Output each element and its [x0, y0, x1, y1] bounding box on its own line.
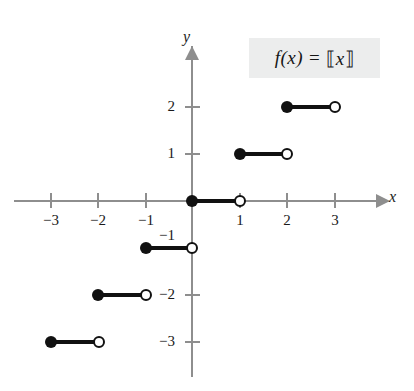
y-tick-label-2: 2: [145, 98, 175, 115]
closed-endpoint-2: [281, 101, 293, 113]
open-endpoint-neg2: [140, 289, 152, 301]
function-label-box: f(x) = ⟦x⟧: [249, 38, 380, 78]
y-tick-label-neg1: −1: [145, 227, 175, 244]
step-segment-2: [287, 105, 335, 109]
y-tick-mark-neg3: [185, 341, 200, 343]
x-tick-label-3: 3: [320, 212, 350, 229]
y-axis-line: [191, 46, 193, 377]
y-axis-label: y: [183, 28, 190, 46]
step-segment-neg2: [98, 293, 146, 297]
function-label-brackets: ⟦x⟧: [326, 47, 354, 70]
closed-endpoint-neg2: [92, 289, 104, 301]
x-tick-label-2: 2: [272, 212, 302, 229]
x-tick-mark-neg2: [97, 193, 99, 208]
step-segment-neg3: [51, 340, 99, 344]
closed-endpoint-neg3: [45, 336, 57, 348]
closed-endpoint-0: [186, 195, 198, 207]
step-segment-1: [240, 152, 287, 156]
closed-endpoint-neg1: [140, 242, 152, 254]
step-function-figure: x y −3 −2 −1 1 2 3 2 1 −1 −2 −3 f(x) =: [0, 0, 414, 391]
y-tick-label-1: 1: [145, 145, 175, 162]
function-label-equals: =: [303, 47, 326, 69]
x-tick-mark-neg1: [145, 193, 147, 208]
x-tick-label-neg2: −2: [83, 212, 113, 229]
step-segment-0: [192, 199, 240, 203]
x-tick-mark-3: [334, 193, 336, 208]
x-tick-mark-neg3: [50, 193, 52, 208]
closed-endpoint-1: [234, 148, 246, 160]
y-tick-mark-neg2: [185, 294, 200, 296]
x-tick-label-neg3: −3: [36, 212, 66, 229]
y-tick-mark-1: [185, 153, 200, 155]
open-endpoint-neg1: [186, 242, 198, 254]
open-endpoint-2: [329, 101, 341, 113]
y-axis-arrow-icon: [185, 46, 199, 60]
x-axis-label: x: [389, 188, 396, 206]
open-endpoint-0: [234, 195, 246, 207]
open-endpoint-neg3: [93, 336, 105, 348]
function-label-fx: f(x): [275, 47, 303, 69]
x-tick-label-1: 1: [225, 212, 255, 229]
y-tick-label-neg3: −3: [145, 333, 175, 350]
open-endpoint-1: [281, 148, 293, 160]
x-axis-arrow-icon: [376, 194, 390, 208]
x-tick-mark-2: [286, 193, 288, 208]
y-tick-mark-2: [185, 106, 200, 108]
